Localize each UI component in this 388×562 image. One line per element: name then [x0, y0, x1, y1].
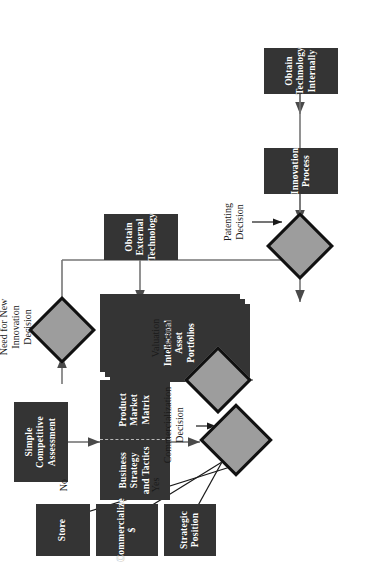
label-need-for-new-innovation-decision: Need for New Innovation Decision — [0, 290, 34, 364]
label-edge-yes: Yes — [150, 472, 162, 498]
node-label: Obtain Technology Internally — [284, 47, 318, 95]
node-commercialize[interactable]: Commercialize $ — [96, 504, 158, 556]
node-obtain-external-technology[interactable]: Obtain External Technology — [104, 214, 178, 260]
node-simple-competitive-assessment[interactable]: Simple Competitive Assessment — [14, 402, 68, 482]
decision-patenting[interactable] — [276, 222, 324, 270]
node-product-market-half[interactable]: Product Market Matrix — [100, 380, 170, 440]
node-strategic-position[interactable]: Strategic Position — [164, 504, 216, 556]
decision-commercialization[interactable] — [210, 414, 262, 466]
node-label: Obtain External Technology — [124, 213, 158, 261]
decision-valuation[interactable] — [194, 356, 242, 404]
node-label: Commercialize $ — [116, 498, 138, 562]
label-edge-no: No — [58, 472, 70, 498]
label-valuation-decision: Valuation Decision — [150, 304, 174, 372]
node-label: Innovation Process — [290, 148, 312, 194]
label-patenting-decision: Patenting Decision — [222, 188, 246, 256]
decision-need-for-new-innovation[interactable] — [38, 306, 86, 354]
diamond-face — [199, 403, 273, 477]
node-store[interactable]: Store — [36, 504, 90, 556]
diamond-face — [28, 296, 96, 364]
node-label: Strategic Position — [179, 511, 201, 549]
node-obtain-technology-internally[interactable]: Obtain Technology Internally — [264, 48, 338, 94]
label-commercialization-decision: Commercialization Decision — [162, 366, 186, 484]
node-label: Store — [57, 519, 68, 541]
node-innovation-process[interactable]: Innovation Process — [264, 148, 338, 194]
node-label: Simple Competitive Assessment — [24, 416, 58, 468]
node-label: Product Market Matrix — [118, 393, 152, 427]
diamond-face — [266, 212, 334, 280]
node-label: Business Strategy and Tactics — [118, 446, 152, 494]
diamond-face — [184, 346, 252, 414]
